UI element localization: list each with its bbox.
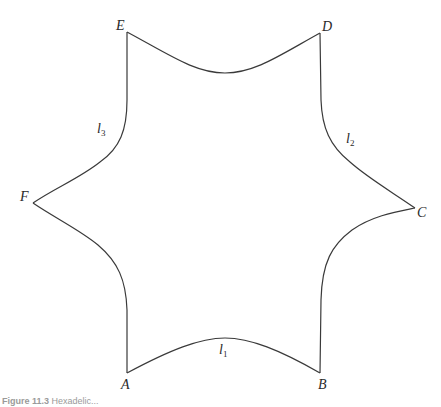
edge-fa (33, 203, 127, 373)
edge-label-l1: l1 (219, 343, 227, 359)
edge-label-l3: l3 (97, 122, 105, 138)
vertex-label-a: A (121, 378, 130, 392)
vertex-label-e: E (116, 19, 125, 33)
vertex-label-d: D (322, 20, 332, 34)
vertex-label-f: F (20, 190, 29, 204)
edge-cd (320, 33, 415, 208)
edge-label-l2: l2 (346, 132, 354, 148)
figure-caption: Figure 11.3 Hexadelic... (2, 397, 99, 407)
edge-de (127, 32, 320, 73)
caption-text: Hexadelic... (52, 397, 99, 406)
edge-ef (33, 32, 127, 203)
caption-label: Figure 11.3 (2, 397, 49, 406)
vertex-label-c: C (417, 206, 426, 220)
vertex-label-b: B (318, 378, 327, 392)
edge-bc (320, 208, 415, 373)
